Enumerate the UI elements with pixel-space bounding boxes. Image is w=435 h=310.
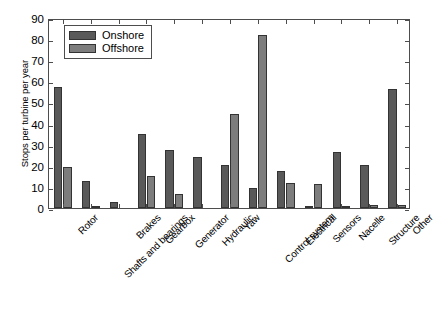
x-tick-mark [341,204,342,208]
bar-onshore [277,171,285,208]
bar-offshore [370,205,378,208]
bar-offshore [314,184,322,208]
bar-onshore [165,150,173,208]
bar-group [244,20,272,208]
x-tick-mark-top [341,20,342,24]
bar-offshore [147,176,155,208]
x-tick-mark [397,204,398,208]
x-tick-label: Nacelle [357,212,387,242]
y-tick-mark [49,83,53,84]
bar-onshore [193,157,201,208]
x-tick-labels: RotorShafts and bearingsBrakesGearboxGen… [48,209,410,304]
bar-offshore [63,167,71,208]
bar-offshore [342,206,350,208]
bar-offshore [230,114,238,208]
bar-group [188,20,216,208]
x-tick-mark-top [286,20,287,24]
y-tick-label: 80 [4,34,44,46]
y-tick-label: 90 [4,13,44,25]
x-tick-mark-top [314,20,315,24]
y-tick-mark [49,168,53,169]
bar-offshore [91,206,99,208]
y-tick-label: 20 [4,161,44,173]
x-tick-mark [91,204,92,208]
bar-offshore [258,35,266,208]
x-tick-mark-top [174,20,175,24]
y-tick-mark [49,104,53,105]
bar-onshore [249,188,257,208]
x-tick-mark-top [119,20,120,24]
y-tick-label: 10 [4,182,44,194]
bar-offshore [175,194,183,208]
bar-group [327,20,355,208]
x-tick-mark-top [258,20,259,24]
bar-onshore [388,89,396,208]
bar-onshore [333,152,341,208]
y-tick-mark [49,147,53,148]
x-tick-mark [63,204,64,208]
y-tick-mark-right [405,62,409,63]
bar-onshore [82,181,90,208]
x-tick-mark-top [230,20,231,24]
x-tick-mark [119,204,120,208]
legend-label-onshore: Onshore [102,30,144,41]
bar-group [300,20,328,208]
x-tick-mark [230,204,231,208]
bar-onshore [54,87,62,208]
y-tick-mark-right [405,20,409,21]
bar-onshore [360,165,368,208]
y-tick-mark [49,20,53,21]
bar-onshore [221,165,229,208]
legend-swatch-onshore [69,31,96,40]
y-tick-mark-right [405,126,409,127]
y-tick-label: 50 [4,97,44,109]
bar-onshore [305,206,313,208]
bar-offshore [286,183,294,208]
y-tick-mark-right [405,189,409,190]
x-tick-mark-top [63,20,64,24]
bar-group [216,20,244,208]
y-tick-mark [49,41,53,42]
bar-group [383,20,411,208]
y-tick-mark [49,189,53,190]
y-tick-mark [49,62,53,63]
x-tick-mark [258,204,259,208]
legend-swatch-offshore [69,44,96,53]
bar-group [272,20,300,208]
legend-item-offshore: Offshore [69,42,144,55]
y-tick-mark-right [405,147,409,148]
y-tick-mark-right [405,41,409,42]
y-tick-label: 40 [4,119,44,131]
x-tick-mark [314,204,315,208]
bar-onshore [110,202,118,208]
legend-item-onshore: Onshore [69,29,144,42]
x-tick-label: Rotor [76,212,100,236]
chart-legend: Onshore Offshore [64,25,152,59]
x-tick-mark [286,204,287,208]
y-tick-label: 0 [4,203,44,215]
x-tick-mark [202,204,203,208]
x-tick-mark-top [202,20,203,24]
y-tick-label: 60 [4,76,44,88]
x-tick-mark-top [369,20,370,24]
y-tick-label: 70 [4,55,44,67]
legend-label-offshore: Offshore [102,43,144,54]
figure-caption [28,300,418,310]
x-tick-mark [369,204,370,208]
x-tick-label: Electrical [303,212,338,247]
y-tick-mark-right [405,168,409,169]
bar-group [355,20,383,208]
x-tick-mark-top [91,20,92,24]
bar-group [160,20,188,208]
x-tick-mark-top [397,20,398,24]
bar-offshore [398,205,406,208]
y-tick-label: 30 [4,140,44,152]
x-tick-mark [174,204,175,208]
x-tick-mark [146,204,147,208]
x-tick-mark-top [146,20,147,24]
bar-onshore [138,134,146,208]
y-tick-mark-right [405,83,409,84]
y-tick-mark-right [405,104,409,105]
y-tick-mark [49,126,53,127]
